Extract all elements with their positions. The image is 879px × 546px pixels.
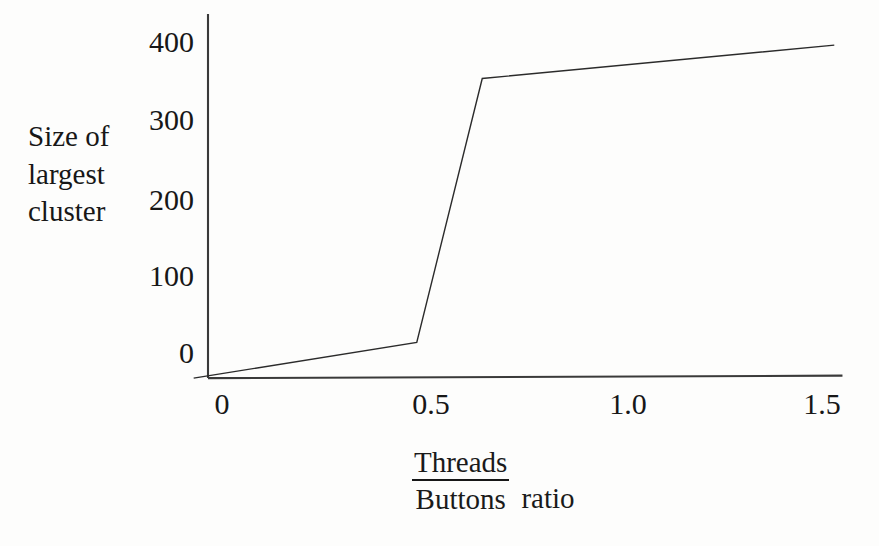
y-tick-label-400: 400 [122, 27, 194, 57]
y-tick-label-0: 0 [122, 338, 194, 368]
x-tick-label-0-5: 0.5 [412, 389, 450, 419]
axis-lines [208, 14, 842, 378]
x-axis-title: Threads Buttons ratio [412, 446, 575, 516]
data-series-line [194, 45, 835, 378]
y-axis-title: Size of largest cluster [28, 118, 178, 231]
x-tick-label-0: 0 [215, 389, 230, 419]
fraction-numerator: Threads [412, 446, 509, 479]
y-tick-label-100: 100 [122, 261, 194, 291]
x-tick-label-1-0: 1.0 [609, 389, 647, 419]
y-axis-title-line-2: largest [28, 156, 178, 194]
x-axis-title-fraction: Threads Buttons [412, 446, 509, 516]
chart-figure: 400 300 200 100 0 0 0.5 1.0 1.5 Size of … [0, 0, 879, 546]
x-tick-label-1-5: 1.5 [803, 389, 841, 419]
fraction-denominator: Buttons [414, 481, 508, 515]
x-axis-line [208, 376, 842, 379]
y-axis-title-line-1: Size of [28, 118, 178, 156]
y-axis-title-line-3: cluster [28, 193, 178, 231]
x-axis-title-suffix: ratio [521, 484, 574, 513]
